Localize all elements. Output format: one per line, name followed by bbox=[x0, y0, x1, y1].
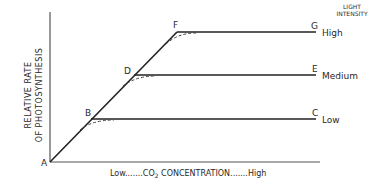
x-axis-dots-right: ....... bbox=[230, 169, 248, 178]
point-label-f: F bbox=[173, 20, 178, 30]
y-axis-label-line1: RELATIVE RATE bbox=[24, 62, 33, 129]
point-label-g: G bbox=[311, 21, 318, 31]
y-axis-label-line2: OF PHOTOSYNTHESIS bbox=[35, 48, 44, 143]
x-axis-high: High bbox=[248, 169, 266, 178]
photosynthesis-diagram: A B D F G E C High Medium Low LIGHT INTE… bbox=[0, 0, 371, 194]
x-axis-co: CO bbox=[143, 169, 155, 178]
rising-line bbox=[50, 32, 177, 162]
x-axis-low: Low bbox=[110, 169, 126, 178]
x-axis-label: Low.......CO2 CONCENTRATION.......High bbox=[110, 169, 266, 179]
x-axis-dots-left: ....... bbox=[125, 169, 143, 178]
legend-title-line2: INTENSITY bbox=[336, 10, 367, 17]
series-label-high: High bbox=[322, 28, 343, 38]
series-label-medium: Medium bbox=[322, 71, 358, 81]
point-label-b: B bbox=[85, 108, 91, 118]
dashed-curve-medium bbox=[123, 76, 156, 86]
legend-title-line1: LIGHT bbox=[343, 3, 361, 10]
point-label-e: E bbox=[312, 64, 318, 74]
x-axis-concentration: CONCENTRATION bbox=[161, 169, 230, 178]
series-label-low: Low bbox=[322, 115, 340, 125]
point-label-c: C bbox=[312, 108, 318, 118]
point-label-a: A bbox=[41, 158, 48, 168]
point-label-d: D bbox=[124, 66, 131, 76]
